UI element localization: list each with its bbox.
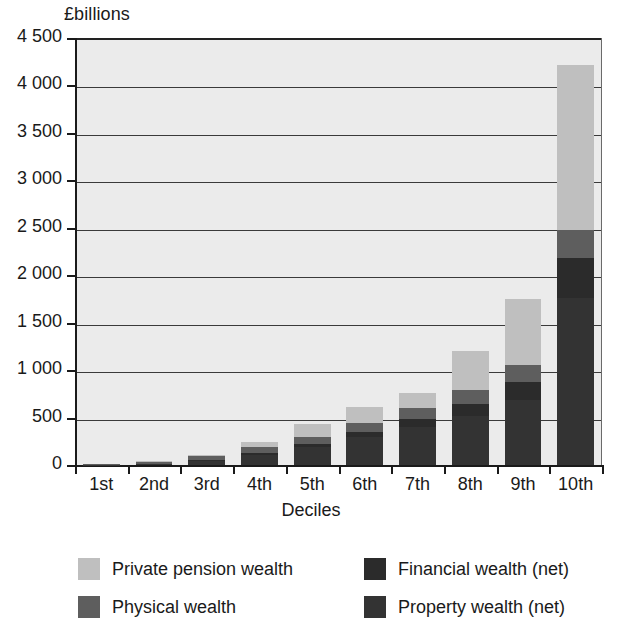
bar-segment [136, 464, 173, 465]
y-axis-tick-label: 3 500 [0, 121, 62, 142]
legend-swatch [78, 558, 100, 580]
x-axis-tick-mark [233, 465, 235, 474]
x-axis-tick-label: 8th [444, 474, 497, 495]
bar-segment [452, 416, 489, 465]
bar-segment [505, 400, 542, 465]
x-axis-tick-label: 9th [497, 474, 550, 495]
bar-segment [505, 365, 542, 382]
x-axis-tick-label: 7th [391, 474, 444, 495]
legend-swatch [364, 558, 386, 580]
x-axis-tick-mark [444, 465, 446, 474]
x-axis-tick-mark [128, 465, 130, 474]
bar-segment [346, 407, 383, 423]
y-axis-tick-label: 500 [0, 406, 62, 427]
bar-stack [399, 393, 436, 465]
bar-segment [346, 423, 383, 432]
bar-segment [557, 230, 594, 258]
bar-stack [188, 455, 225, 465]
bar-segment [452, 390, 489, 404]
x-axis-tick-mark [497, 465, 499, 474]
y-axis-tick-label: 1 500 [0, 311, 62, 332]
wealth-by-decile-chart: £billions 05001 0001 5002 0002 5003 0003… [0, 0, 622, 630]
legend-item: Private pension wealth [78, 558, 364, 580]
legend-label: Property wealth (net) [398, 597, 565, 618]
x-axis-tick-mark [180, 465, 182, 474]
bar-segment [294, 437, 331, 445]
y-axis-unit-label: £billions [64, 4, 130, 25]
bar-stack [241, 442, 278, 465]
bar-segment [452, 351, 489, 390]
bar-segment [557, 258, 594, 298]
bar-stack [346, 407, 383, 465]
legend-label: Financial wealth (net) [398, 559, 569, 580]
bar-stack [452, 351, 489, 465]
x-axis-tick-mark [339, 465, 341, 474]
bar-stack [83, 464, 120, 465]
y-axis-tick-label: 4 000 [0, 73, 62, 94]
x-axis-tick-label: 10th [549, 474, 602, 495]
x-axis-tick-mark [391, 465, 393, 474]
bar-series-container [75, 38, 602, 465]
y-axis-tick-label: 2 000 [0, 263, 62, 284]
bar-segment [188, 461, 225, 465]
legend-item: Physical wealth [78, 596, 364, 618]
legend-label: Private pension wealth [112, 559, 293, 580]
legend-swatch [364, 596, 386, 618]
bar-segment [399, 419, 436, 427]
x-axis-tick-mark [602, 465, 604, 474]
x-axis-tick-label: 3rd [180, 474, 233, 495]
bar-segment [294, 447, 331, 465]
x-axis-tick-label: 1st [75, 474, 128, 495]
x-axis-tick-mark [549, 465, 551, 474]
legend-label: Physical wealth [112, 597, 236, 618]
bar-segment [399, 427, 436, 465]
y-axis-tick-label: 4 500 [0, 26, 62, 47]
y-axis-tick-label: 1 000 [0, 358, 62, 379]
legend-swatch [78, 596, 100, 618]
bar-segment [505, 382, 542, 400]
bar-stack [136, 461, 173, 465]
bar-stack [294, 424, 331, 465]
bar-segment [452, 404, 489, 415]
bar-segment [294, 424, 331, 437]
legend-item: Financial wealth (net) [364, 558, 604, 580]
y-axis-tick-label: 0 [0, 453, 62, 474]
chart-legend: Private pension wealthFinancial wealth (… [78, 550, 578, 626]
bar-segment [399, 408, 436, 419]
bar-segment [241, 455, 278, 465]
bar-segment [505, 299, 542, 365]
bar-stack [505, 299, 542, 466]
x-axis-tick-label: 6th [339, 474, 392, 495]
x-axis-tick-mark [75, 465, 77, 474]
x-axis-tick-label: 5th [286, 474, 339, 495]
y-axis-tick-label: 2 500 [0, 216, 62, 237]
x-axis-tick-label: 2nd [128, 474, 181, 495]
bar-stack [557, 65, 594, 465]
x-axis-tick-mark [286, 465, 288, 474]
bar-segment [557, 298, 594, 465]
x-axis-title: Deciles [0, 500, 622, 521]
bar-segment [557, 65, 594, 230]
bar-segment [346, 437, 383, 465]
x-axis-tick-label: 4th [233, 474, 286, 495]
bar-segment [399, 393, 436, 408]
legend-item: Property wealth (net) [364, 596, 604, 618]
y-axis-tick-label: 3 000 [0, 168, 62, 189]
